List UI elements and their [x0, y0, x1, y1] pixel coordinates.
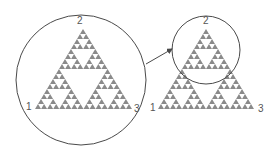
right-zoom-circle	[172, 16, 240, 84]
left-sierpinski-triangle	[35, 29, 132, 109]
right-vertex-label-2: 2	[203, 15, 209, 26]
right-vertex-label-1: 1	[150, 102, 156, 113]
right-sierpinski-triangle	[158, 29, 254, 109]
sierpinski-diagram: 1 2 3 1 2 3	[0, 0, 276, 152]
right-vertex-label-3: 3	[258, 103, 264, 114]
left-vertex-label-2: 2	[77, 15, 83, 26]
right-figure: 1 2 3	[150, 15, 264, 114]
left-vertex-label-1: 1	[26, 101, 32, 112]
zoom-arrow	[146, 49, 172, 64]
left-figure: 1 2 3	[16, 15, 146, 145]
left-zoom-circle	[16, 15, 146, 145]
left-vertex-label-3: 3	[134, 103, 140, 114]
